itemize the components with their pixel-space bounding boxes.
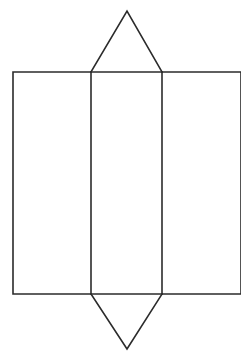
left-panel-face bbox=[13, 72, 91, 294]
middle-panel-face bbox=[91, 72, 162, 294]
figure-root: Net of a prism with triangular end flaps bbox=[0, 0, 241, 359]
right-panel-face bbox=[162, 72, 241, 294]
net-diagram bbox=[0, 0, 241, 359]
